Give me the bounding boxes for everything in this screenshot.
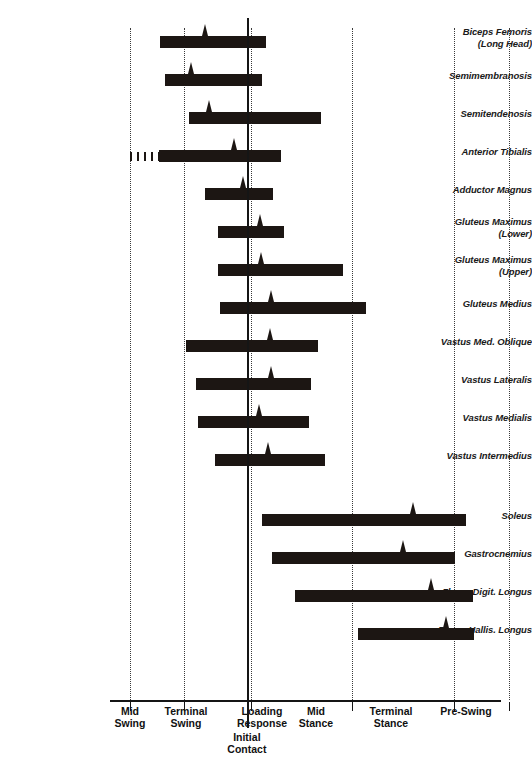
peak-marker (258, 252, 264, 264)
activity-bar (205, 188, 273, 200)
activity-bar (295, 590, 473, 602)
phase-label-pre-swing: Pre-Swing (421, 705, 511, 717)
muscle-row: Anterior Tibialis (0, 136, 532, 174)
peak-marker (268, 366, 274, 378)
activity-bar (215, 454, 325, 466)
activity-bar (186, 340, 318, 352)
muscle-label-semitendenosis: Semitendenosis (414, 108, 532, 120)
peak-marker (240, 176, 246, 188)
peak-marker (256, 404, 262, 416)
activity-bar (358, 628, 475, 640)
x-axis-line (110, 700, 501, 702)
peak-marker (202, 24, 208, 36)
muscle-row: Gluteus Maximus (Lower) (0, 212, 532, 250)
initial-contact-label: Initial Contact (202, 731, 292, 755)
initial-contact-tick (247, 702, 249, 728)
activity-bar (160, 36, 266, 48)
lead-in-ticks (130, 152, 159, 161)
activity-bar (218, 264, 343, 276)
muscle-label-adductor-magnus: Adductor Magnus (414, 184, 532, 196)
initial-contact-axis (247, 18, 249, 700)
muscle-row: Vastus Intermedius (0, 440, 532, 478)
muscle-label-semimembranosis: Semimembranosis (414, 70, 532, 82)
muscle-label-gluteus-maximus-upper: Gluteus Maximus (Upper) (414, 254, 532, 277)
peak-marker (267, 328, 273, 340)
peak-marker (428, 578, 434, 590)
peak-marker (231, 138, 237, 150)
activity-bar (272, 552, 455, 564)
peak-marker (265, 442, 271, 454)
muscle-label-vastus-medialis: Vastus Medialis (414, 412, 532, 424)
peak-marker (268, 290, 274, 302)
muscle-row: Gastrocnemius (0, 538, 532, 576)
activity-bar (262, 514, 465, 526)
muscle-row: Vastus Med. Oblique (0, 326, 532, 364)
muscle-row: Semimembranosis (0, 60, 532, 98)
muscle-label-gluteus-maximus-lower: Gluteus Maximus (Lower) (414, 216, 532, 239)
muscle-row: Gluteus Maximus (Upper) (0, 250, 532, 288)
activity-bar (220, 302, 366, 314)
peak-marker (443, 616, 449, 628)
muscle-row: Vastus Medialis (0, 402, 532, 440)
muscle-row: Biceps Femoris (Long Head) (0, 22, 532, 60)
muscle-row: Flexor Hallis. Longus (0, 614, 532, 652)
activity-bar (196, 378, 310, 390)
activity-bar (189, 112, 321, 124)
muscle-label-vastus-lateralis: Vastus Lateralis (414, 374, 532, 386)
muscle-row: Semitendenosis (0, 98, 532, 136)
muscle-row: Vastus Lateralis (0, 364, 532, 402)
activity-bar (159, 150, 281, 162)
muscle-row: Adductor Magnus (0, 174, 532, 212)
muscle-label-gluteus-medius: Gluteus Medius (414, 298, 532, 310)
plot-area: Biceps Femoris (Long Head)Semimembranosi… (0, 0, 532, 700)
peak-marker (410, 502, 416, 514)
gait-emg-chart: Biceps Femoris (Long Head)Semimembranosi… (0, 0, 532, 762)
peak-marker (206, 100, 212, 112)
peak-marker (257, 214, 263, 226)
activity-bar (218, 226, 283, 238)
peak-marker (188, 62, 194, 74)
muscle-label-biceps-femoris-long-head: Biceps Femoris (Long Head) (414, 26, 532, 49)
muscle-label-vastus-intermedius: Vastus Intermedius (414, 450, 532, 462)
muscle-label-anterior-tibialis: Anterior Tibialis (414, 146, 532, 158)
muscle-row: Flexor Digit. Longus (0, 576, 532, 614)
activity-bar (198, 416, 308, 428)
muscle-row: Gluteus Medius (0, 288, 532, 326)
muscle-label-vastus-med-oblique: Vastus Med. Oblique (414, 336, 532, 348)
peak-marker (400, 540, 406, 552)
muscle-row: Soleus (0, 500, 532, 538)
